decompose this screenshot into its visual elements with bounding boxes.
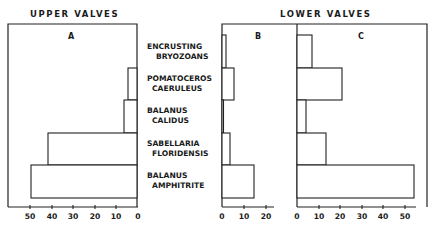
upper-valves-title: UPPER VALVES [30, 9, 119, 19]
bar-b-pomatoceros [222, 68, 234, 100]
category-labels: ENCRUSTING BRYOZOANS POMATOCEROS CAERULE… [147, 42, 212, 190]
category-label: BRYOZOANS [156, 52, 208, 61]
bar-c-pomatoceros [297, 68, 342, 100]
panel-a-label: A [68, 32, 75, 41]
bar-b-balanus-amphitrite [222, 165, 254, 198]
category-label: BALANUS [147, 171, 187, 180]
bar-b-balanus-calidus [222, 100, 224, 133]
category-label: SABELLARIA [147, 139, 200, 148]
category-label: ENCRUSTING [147, 42, 202, 51]
tick-label: 40 [47, 212, 58, 221]
tick-label: 10 [239, 212, 250, 221]
tick-label: 20 [90, 212, 101, 221]
bar-a-sabellaria [48, 133, 137, 165]
panel-a: A 50 40 30 20 10 0 [8, 24, 141, 221]
chart-figure: UPPER VALVES LOWER VALVES A 50 40 30 20 … [0, 0, 435, 225]
tick-label: 10 [314, 212, 325, 221]
panel-b-label: B [255, 32, 261, 41]
bar-a-balanus-amphitrite [31, 165, 137, 198]
lower-valves-title: LOWER VALVES [280, 9, 372, 19]
panel-c: C 0 10 20 30 40 50 [294, 32, 416, 221]
category-label: CAERULEUS [152, 84, 202, 93]
category-label: BALANUS [147, 106, 187, 115]
tick-label: 0 [294, 212, 299, 221]
bar-c-sabellaria [297, 133, 326, 165]
tick-label: 20 [335, 212, 346, 221]
bar-c-balanus-amphitrite [297, 165, 414, 198]
bar-a-balanus-calidus [124, 100, 137, 133]
tick-label: 0 [135, 212, 140, 221]
category-label: FLORIDENSIS [152, 149, 209, 158]
tick-label: 20 [261, 212, 272, 221]
bar-a-pomatoceros [128, 68, 137, 100]
category-label: AMPHITRITE [152, 181, 204, 190]
tick-label: 50 [25, 212, 36, 221]
tick-label: 30 [68, 212, 79, 221]
bar-b-bryozoans [222, 35, 226, 68]
category-label: POMATOCEROS [147, 74, 212, 83]
bar-b-sabellaria [222, 133, 230, 165]
bar-c-balanus-calidus [297, 100, 306, 133]
bar-c-bryozoans [297, 35, 312, 68]
tick-label: 0 [219, 212, 224, 221]
category-label: CALIDUS [152, 116, 189, 125]
tick-label: 50 [400, 212, 411, 221]
panel-c-label: C [358, 32, 364, 41]
tick-label: 40 [378, 212, 389, 221]
tick-label: 10 [111, 212, 122, 221]
tick-label: 30 [357, 212, 368, 221]
